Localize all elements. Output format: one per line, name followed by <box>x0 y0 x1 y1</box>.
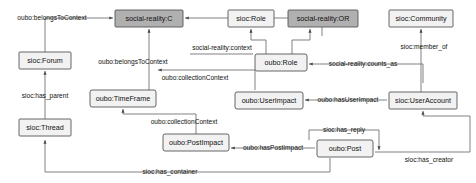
edge-label-member-of: sioc:member_of <box>401 43 448 51</box>
node-label: sioc:Role <box>236 14 266 23</box>
node-sioc-forum[interactable]: sioc:Forum <box>19 52 71 69</box>
edge-label-has-creator: sioc:has_creator <box>405 156 454 164</box>
edge-label-has-container: sioc:has_container <box>143 168 199 176</box>
ontology-diagram: social-reality:C sioc:Role social-realit… <box>0 0 476 183</box>
edge-label-collection-context-bottom: oubo:collectionContext <box>151 118 218 125</box>
node-label: social-reality:C <box>125 14 172 23</box>
edge-oubo-role-to-sioc-role <box>251 29 266 54</box>
node-oubo-role[interactable]: oubo:Role <box>255 54 307 71</box>
node-label: oubo:Post <box>329 144 361 153</box>
edge-label-has-reply: sioc:has_reply <box>323 126 366 134</box>
node-sioc-community[interactable]: sioc:Community <box>389 10 453 27</box>
node-sioc-useraccount[interactable]: sioc:UserAccount <box>389 92 457 109</box>
node-label: oubo:Role <box>265 58 298 67</box>
edge-label-has-parent: sioc:has_parent <box>22 92 69 100</box>
node-label: sioc:Community <box>395 14 447 23</box>
node-label: oubo:PostImpact <box>169 138 223 147</box>
node-label: social-reality:OR <box>297 14 350 23</box>
node-social-reality-or[interactable]: social-reality:OR <box>288 10 358 27</box>
edge-label-has-post-impact: oubo:hasPostImpact <box>243 144 303 152</box>
edge-label-belongs-to-context-timeframe: oubo:belongsToContext <box>98 58 167 66</box>
node-sioc-role[interactable]: sioc:Role <box>228 10 274 27</box>
edge-oubo-role-to-or <box>292 29 310 54</box>
node-oubo-post[interactable]: oubo:Post <box>317 140 373 157</box>
node-oubo-timeframe[interactable]: oubo:TimeFrame <box>90 90 156 107</box>
node-label: sioc:Forum <box>27 56 63 65</box>
edge-label-social-reality-context: social-reality:context <box>192 44 252 52</box>
nodes-group: social-reality:C sioc:Role social-realit… <box>19 10 457 157</box>
node-sioc-thread[interactable]: sioc:Thread <box>19 119 71 136</box>
edge-label-collection-context-top: oubo:collectionContext <box>162 74 229 81</box>
edge-has-creator <box>375 111 470 152</box>
edge-label-counts-as: social-reality:counts_as <box>329 60 398 68</box>
node-label: oubo:UserImpact <box>242 96 297 105</box>
edge-label-belongs-to-context-forum: oubo:belongsToContext <box>17 14 86 22</box>
edge-label-has-user-impact: oubo:hasUserImpact <box>318 96 379 104</box>
node-social-reality-c[interactable]: social-reality:C <box>115 10 183 27</box>
edge-forum-belongsToContext-C <box>45 18 113 52</box>
node-oubo-userimpact[interactable]: oubo:UserImpact <box>235 92 303 109</box>
node-oubo-postimpact[interactable]: oubo:PostImpact <box>163 134 229 151</box>
node-label: oubo:TimeFrame <box>96 94 150 103</box>
diagram-canvas: social-reality:C sioc:Role social-realit… <box>0 0 476 183</box>
node-label: sioc:Thread <box>26 123 64 132</box>
edge-counts-as <box>309 64 423 83</box>
node-label: sioc:UserAccount <box>395 96 451 105</box>
